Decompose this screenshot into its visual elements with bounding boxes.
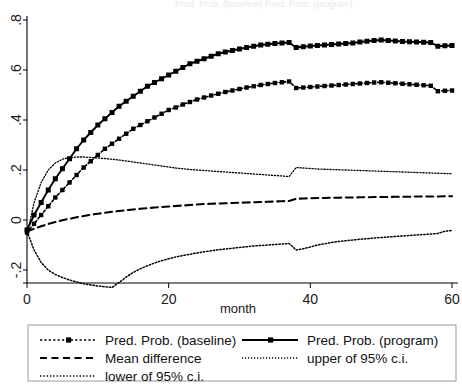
series-marker xyxy=(336,42,341,47)
series-marker xyxy=(393,81,397,85)
series-marker xyxy=(53,195,57,199)
series-marker xyxy=(46,188,51,193)
series-marker xyxy=(159,76,164,81)
series-marker xyxy=(187,61,192,66)
y-tick-label: .8 xyxy=(8,14,24,26)
series-marker xyxy=(39,213,43,217)
x-tick-label: 0 xyxy=(23,291,31,307)
series-marker xyxy=(216,51,221,56)
series-marker xyxy=(329,42,334,47)
series-marker xyxy=(357,40,362,45)
y-tick-label: .6 xyxy=(8,64,24,76)
series-marker xyxy=(110,110,115,115)
legend-label: upper of 95% c.i. xyxy=(307,351,408,366)
series-marker xyxy=(81,165,85,169)
series-marker xyxy=(322,84,326,88)
series-marker xyxy=(386,38,391,43)
series-marker xyxy=(450,88,454,92)
series-marker xyxy=(450,43,455,48)
y-tick-label: .2 xyxy=(8,164,24,176)
series-marker xyxy=(173,69,178,74)
series-marker xyxy=(350,41,355,46)
series-marker xyxy=(287,40,292,45)
x-tick-label: 40 xyxy=(303,291,319,307)
chart-canvas: Pred. Prob. (baseline) Pred. Prob. (prog… xyxy=(0,0,462,384)
series-marker xyxy=(103,147,107,151)
series-marker xyxy=(131,94,136,99)
legend-label: Pred. Prob. (baseline) xyxy=(105,333,236,348)
x-tick-label: 20 xyxy=(161,291,177,307)
x-tick-label: 60 xyxy=(444,291,460,307)
series-marker xyxy=(358,81,362,85)
series-marker xyxy=(365,81,369,85)
series-marker xyxy=(124,132,128,136)
series-marker xyxy=(202,95,206,99)
series-marker xyxy=(244,45,249,50)
series-marker xyxy=(400,39,405,44)
figure-root: Pred. Prob. (baseline) Pred. Prob. (prog… xyxy=(0,0,462,384)
series-marker xyxy=(244,85,248,89)
series-marker xyxy=(386,81,390,85)
series-marker xyxy=(223,90,227,94)
series-marker xyxy=(159,112,163,116)
series-marker xyxy=(237,47,242,52)
series-marker xyxy=(209,54,214,59)
series-marker xyxy=(39,200,44,205)
legend-swatch-marker xyxy=(66,337,71,342)
series-marker xyxy=(166,73,171,78)
series-marker xyxy=(280,80,284,84)
series-marker xyxy=(442,43,447,48)
series-marker xyxy=(315,84,319,88)
series-marker xyxy=(251,44,256,49)
series-marker xyxy=(181,102,185,106)
series-marker xyxy=(188,100,192,104)
series-marker xyxy=(273,81,277,85)
series-marker xyxy=(131,127,135,131)
series-marker xyxy=(308,44,313,49)
series-marker xyxy=(272,41,277,46)
series-marker xyxy=(407,82,411,86)
y-tick-label: -.2 xyxy=(8,262,24,279)
series-marker xyxy=(421,40,426,45)
series-marker xyxy=(258,43,263,48)
series-marker xyxy=(195,97,199,101)
series-marker xyxy=(152,115,156,119)
series-marker xyxy=(110,142,114,146)
series-marker xyxy=(436,89,440,93)
series-marker xyxy=(443,89,447,93)
legend-swatch-marker xyxy=(268,337,273,342)
y-tick-label: .4 xyxy=(8,114,24,126)
series-marker xyxy=(145,84,150,89)
series-marker xyxy=(53,176,58,181)
y-tick-label: 0 xyxy=(8,216,24,224)
series-marker xyxy=(421,83,425,87)
series-marker xyxy=(223,50,228,55)
series-marker xyxy=(145,119,149,123)
series-marker xyxy=(259,83,263,87)
series-marker xyxy=(329,83,333,87)
series-marker xyxy=(365,39,370,44)
series-marker xyxy=(74,146,79,151)
legend-label: Pred. Prob. (program) xyxy=(307,333,438,348)
series-marker xyxy=(174,105,178,109)
series-marker xyxy=(414,40,419,45)
series-marker xyxy=(117,104,122,109)
series-marker xyxy=(209,93,213,97)
series-marker xyxy=(81,138,86,143)
series-marker xyxy=(344,82,348,86)
series-marker xyxy=(379,80,383,84)
chart-background xyxy=(0,0,462,384)
series-marker xyxy=(343,41,348,46)
series-marker xyxy=(216,92,220,96)
legend-label: Mean difference xyxy=(105,351,202,366)
series-marker xyxy=(301,85,305,89)
series-marker xyxy=(60,166,65,171)
series-marker xyxy=(180,65,185,70)
legend-label: lower of 95% c.i. xyxy=(105,369,204,384)
series-marker xyxy=(372,38,377,43)
series-marker xyxy=(46,204,50,208)
series-marker xyxy=(379,38,384,43)
series-marker xyxy=(102,116,107,121)
series-marker xyxy=(336,83,340,87)
series-marker xyxy=(96,153,100,157)
